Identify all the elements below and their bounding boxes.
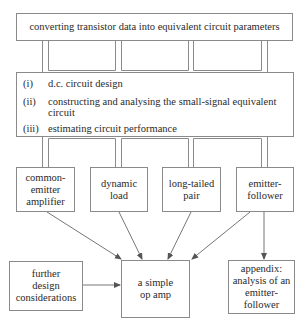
appendix-box: appendix: analysis of an emitter- follow… [228,260,295,314]
step-number: (i) [23,78,33,89]
common-emitter-label: common- emitter amplifier [25,172,65,208]
appendix-label: appendix: analysis of an emitter- follow… [233,263,291,311]
long-tailed-pair-label: long-tailed pair [169,178,215,202]
emitter-follower-box: emitter- follower [236,167,294,212]
further-design-box: further design considerations [9,261,83,311]
common-emitter-box: common- emitter amplifier [16,167,75,212]
dynamic-load-box: dynamic load [90,167,148,212]
design-steps-box: (i) d.c. circuit design (ii) constructin… [16,72,294,137]
step-number: (ii) [23,96,36,107]
further-design-label: further design considerations [16,268,77,304]
step-text: constructing and analysing the small-sig… [48,96,288,118]
transistor-data-box: converting transistor data into equivale… [16,13,293,41]
dynamic-load-label: dynamic load [101,178,137,202]
op-amp-box: a simple op amp [121,260,190,318]
step-text: d.c. circuit design [48,78,288,89]
transistor-data-label: converting transistor data into equivale… [29,21,279,33]
step-number: (iii) [23,123,39,134]
long-tailed-pair-box: long-tailed pair [162,167,221,212]
op-amp-label: a simple op amp [138,277,173,301]
emitter-follower-label: emitter- follower [247,178,283,202]
step-text: estimating circuit performance [48,123,288,134]
